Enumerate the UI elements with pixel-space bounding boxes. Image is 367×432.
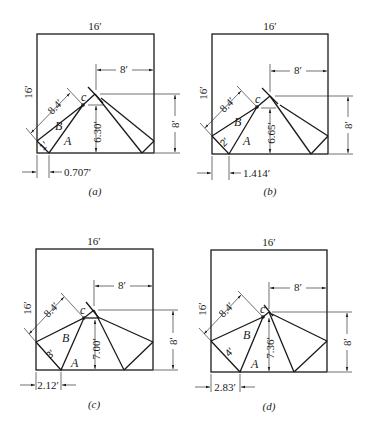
left-height-label: 16′ [197, 86, 209, 99]
region-b-label: B [55, 119, 63, 133]
left-height-label: 16′ [196, 302, 208, 315]
c-label: c [255, 92, 261, 106]
small-edge-label: 3′ [44, 348, 57, 361]
c-height-label: 6.65′ [265, 122, 277, 144]
top-width-label: 16′ [263, 20, 276, 32]
left-ridge [84, 310, 94, 318]
panel-caption: (c) [88, 398, 101, 411]
diag-length-label: 8.4′ [216, 300, 236, 320]
right-small-edge [142, 141, 154, 153]
bottom-offset-label: 2.12′ [37, 379, 59, 391]
region-a-label: A [63, 134, 72, 148]
left-height-label: 16′ [21, 301, 33, 314]
right-offset-label: 8′ [118, 279, 126, 291]
right-small-edge [294, 341, 327, 372]
right-edge-b [272, 314, 327, 341]
bottom-offset-label: 2.83′ [214, 381, 236, 393]
c-height-label: 6.30′ [91, 121, 103, 143]
region-a-label: A [242, 134, 251, 148]
right-offset-label: 8′ [294, 281, 302, 293]
bottom-offset-label: 0.707′ [64, 166, 91, 178]
panel-caption: (a) [89, 185, 102, 198]
panel-b: 16′ 16′ c B A 2′ 8.4′ 6.65′ 8′ 8′ 1.414′ [197, 20, 354, 198]
right-height-label: 8′ [341, 338, 353, 346]
right-small-edge [124, 342, 153, 370]
small-edge-label: 2′ [218, 136, 231, 149]
c-height-label: 7.36′ [264, 337, 276, 359]
bottom-offset-label: 1.414′ [243, 167, 270, 179]
top-width-label: 16′ [87, 235, 100, 247]
small-edge-label: 4′ [223, 346, 236, 359]
right-height-label: 8′ [342, 121, 354, 129]
right-offset-label: 8′ [294, 64, 302, 76]
top-width-label: 16′ [262, 236, 275, 248]
panel-caption: (d) [263, 400, 276, 413]
region-b-label: B [243, 328, 251, 342]
diagram-canvas: 16′ 16′ c B A 1′ 8.4′ 6.30′ 8′ 8′ [0, 0, 367, 432]
c-label: c [260, 302, 266, 316]
region-a-label: A [70, 356, 79, 370]
panel-a: 16′ 16′ c B A 1′ 8.4′ 6.30′ 8′ 8′ [22, 20, 181, 198]
c-label: c [81, 90, 87, 104]
panel-c: 16′ 16′ c B A 3′ 8.4′ 7.00′ 8′ 8′ 2.12′ … [20, 235, 179, 411]
region-b-label: B [62, 331, 70, 345]
right-height-label: 8′ [169, 120, 181, 128]
right-height-label: 8′ [167, 337, 179, 345]
right-small-edge [311, 136, 328, 154]
top-width-label: 16′ [88, 20, 101, 32]
diag-length-label: 8.4′ [45, 97, 65, 117]
left-height-label: 16′ [22, 85, 34, 98]
right-offset-label: 8′ [120, 63, 128, 75]
diag-length-label: 8.4′ [217, 95, 237, 115]
panel-caption: (b) [264, 185, 277, 198]
region-a-label: A [250, 357, 259, 371]
region-b-label: B [234, 115, 242, 129]
panel-d: 16′ 16′ c B A 4′ 8.4′ 7.36′ 8′ 8′ 2.83′ … [195, 236, 353, 413]
diag-length-label: 8.4′ [41, 300, 61, 320]
small-edge-label: 1′ [37, 139, 50, 152]
c-height-label: 7.00′ [90, 338, 102, 360]
